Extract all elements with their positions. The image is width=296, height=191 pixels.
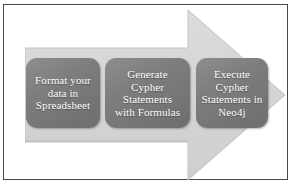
process-step-1-label: Format your data in Spreadsheet — [35, 74, 91, 112]
process-step-2-label: Generate Cypher Statements with Formulas — [115, 68, 180, 118]
process-step-3-label: Execute Cypher Statements in Neo4j — [202, 68, 263, 118]
process-step-1[interactable]: Format your data in Spreadsheet — [26, 58, 100, 128]
process-flow-diagram: Format your data in Spreadsheet Generate… — [0, 0, 296, 191]
process-step-3[interactable]: Execute Cypher Statements in Neo4j — [196, 58, 268, 128]
process-step-2[interactable]: Generate Cypher Statements with Formulas — [105, 58, 190, 128]
